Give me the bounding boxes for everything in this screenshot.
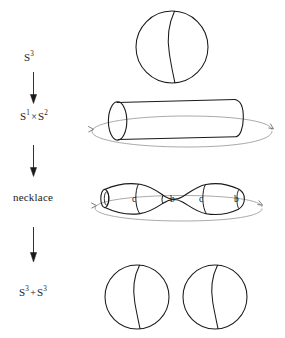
- sphere-bottom-left: [105, 265, 169, 329]
- sphere-arc-icon: [168, 11, 175, 83]
- bead-label-c-1: c: [132, 195, 136, 205]
- cylinder-group: [89, 100, 274, 148]
- stage-label-s1xs2-operator: ×: [30, 111, 38, 122]
- stage-label-necklace: necklace: [13, 192, 53, 203]
- necklace-separator-3-icon: [203, 185, 207, 214]
- stage-label-s1xs2: S1×S2: [20, 111, 48, 122]
- cylinder-top-edge-icon: [117, 100, 235, 103]
- arrow-head: [30, 168, 36, 177]
- sphere-top: [136, 11, 208, 83]
- necklace-separator-2-icon: [162, 195, 163, 203]
- necklace-left-cap-inner-icon: [104, 192, 109, 205]
- arrow-head: [30, 253, 36, 263]
- arrow-1: [30, 72, 36, 104]
- sphere-outline-icon: [183, 265, 247, 329]
- sphere-outline-icon: [105, 265, 169, 329]
- sphere-arc-icon: [212, 265, 218, 329]
- stage-label-s1xs2-exponent2: 2: [44, 109, 48, 117]
- arrow-2: [30, 145, 36, 177]
- sphere-arc-icon: [134, 265, 140, 329]
- identification-loop-top-icon: [92, 116, 272, 132]
- bead-label-b-1: b: [170, 195, 175, 205]
- stage-label-s3-plus-s3: S3+S3: [19, 287, 47, 298]
- sphere-outline-icon: [136, 11, 208, 83]
- sphere-bottom-right: [183, 265, 247, 329]
- stage-label-sum-operator: +: [29, 287, 37, 298]
- arrow-3: [30, 227, 36, 262]
- cylinder-bottom-edge-icon: [118, 137, 236, 140]
- stage-label-sum-exponent2: 3: [43, 285, 47, 293]
- necklace-separator-1-icon: [136, 184, 140, 214]
- figure-canvas: S3 S1×S2 necklace S3+S3 c b c b: [0, 0, 285, 338]
- bead-label-b-2: b: [234, 195, 239, 205]
- bead-label-c-2: c: [199, 195, 203, 205]
- stage-label-s3: S3: [24, 52, 34, 63]
- stage-label-s3-exponent: 3: [30, 50, 34, 58]
- loop-arrow-left-icon: [89, 127, 94, 132]
- arrow-head: [30, 95, 36, 104]
- necklace-loop-arrow-left-icon: [92, 203, 97, 208]
